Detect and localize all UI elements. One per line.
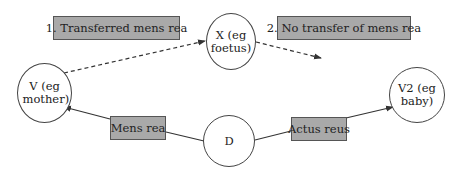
node-x-label: X (eg foetus) [210,29,252,55]
node-v2-baby: V2 (eg baby) [389,67,445,123]
node-v-label: V (eg mother) [23,80,67,106]
edge-mens-rea-to-v [64,107,110,119]
edge-d-to-actus-reus [255,131,291,140]
edge-d-to-mens-rea [166,132,204,141]
label-mens-rea: Mens rea [110,116,166,140]
label-actus-reus: Actus reus [291,117,347,141]
node-d: D [203,115,255,167]
node-d-label: D [224,135,233,148]
edge-x-to-none [256,42,321,58]
label-transferred-mens-rea: 1. Transferred mens rea [53,16,180,40]
edge-actus-reus-to-v2 [346,107,393,118]
label-no-transfer-mens-rea: 2. No transfer of mens rea [277,16,411,40]
transferred-malice-diagram: 1. Transferred mens rea 2. No transfer o… [0,0,458,179]
node-v2-label: V2 (eg baby) [395,82,439,108]
node-x-foetus: X (eg foetus) [206,13,256,70]
edge-v-to-x [64,41,205,73]
node-v-mother: V (eg mother) [17,63,72,123]
